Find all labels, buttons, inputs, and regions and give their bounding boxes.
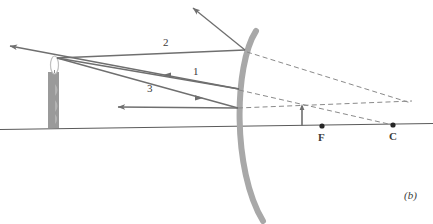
ray-label-3: 3: [147, 83, 153, 94]
panel-label: (b): [404, 190, 417, 201]
ray-label-2: 2: [163, 37, 169, 48]
focal-point-dot: [319, 123, 324, 128]
ray-diagram-canvas: [0, 0, 433, 224]
solid-ray-group: [10, 8, 245, 108]
inverted-image-arrow: [300, 104, 305, 126]
dashed-extension-group: [238, 52, 412, 125]
virtual-extension-a: [247, 52, 411, 103]
candle-body: [48, 72, 59, 128]
principal-axis: [0, 124, 433, 130]
center-of-curvature-dot: [390, 122, 395, 127]
ray-diagram-figure: 1 2 3 F C (b): [0, 0, 433, 224]
virtual-extension-b: [238, 101, 412, 108]
candle-object: [48, 56, 59, 128]
reflected-ray-2: [193, 8, 245, 50]
incident-ray-2: [57, 50, 245, 58]
reflected-ray-3: [118, 107, 238, 108]
ray-label-1: 1: [193, 66, 199, 77]
arrowhead-incident-3: [195, 95, 203, 100]
reflected-ray-1: [10, 46, 239, 89]
virtual-extension-c: [239, 90, 393, 125]
center-of-curvature-label: C: [389, 131, 397, 142]
focal-point-label: F: [318, 132, 325, 143]
